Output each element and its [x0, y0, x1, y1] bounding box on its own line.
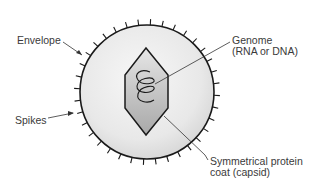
spike: [187, 145, 191, 150]
spike: [212, 107, 218, 108]
capsid-label: Symmetrical protein coat (capsid): [210, 156, 303, 178]
spikes-label: Spikes: [15, 115, 47, 126]
capsid-label-line2: coat (capsid): [210, 167, 303, 178]
envelope-arrowhead: [76, 50, 82, 55]
spike: [207, 59, 212, 62]
spike: [167, 156, 169, 162]
spike: [94, 42, 98, 46]
spike: [89, 132, 94, 136]
genome-label: Genome (RNA or DNA): [232, 35, 298, 57]
spike: [214, 83, 220, 84]
spike: [196, 138, 200, 142]
spike: [138, 20, 139, 26]
spike: [75, 100, 81, 101]
spike: [97, 141, 101, 145]
spike: [131, 157, 132, 163]
spike: [193, 39, 197, 43]
spike: [103, 34, 107, 39]
spike: [173, 25, 175, 31]
spike: [200, 48, 205, 52]
spike: [211, 71, 217, 73]
spike: [183, 31, 186, 36]
genome-label-line2: (RNA or DNA): [232, 46, 298, 57]
spike: [178, 152, 181, 157]
spikes-arrowhead: [68, 111, 74, 116]
spike: [155, 159, 156, 165]
spike: [203, 128, 208, 131]
spike: [82, 123, 87, 126]
spike: [209, 118, 215, 120]
spike: [80, 64, 86, 66]
spike: [162, 21, 163, 27]
envelope-label: Envelope: [17, 35, 61, 46]
spike: [77, 112, 83, 114]
spike: [76, 76, 82, 77]
spike: [114, 27, 117, 32]
spike: [86, 52, 91, 55]
spike: [107, 148, 110, 153]
spike: [126, 22, 128, 28]
spike: [119, 154, 121, 160]
